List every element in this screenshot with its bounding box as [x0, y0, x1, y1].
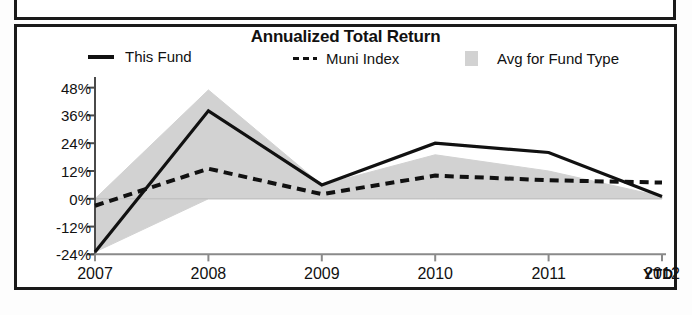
x-axis-tick-label: 2009: [304, 265, 340, 283]
x-axis-ytd-label: YTD: [643, 265, 673, 282]
annualized-total-return-chart-panel: Annualized Total Return This Fund Muni I…: [14, 24, 677, 290]
screenshot-root: Annualized Total Return This Fund Muni I…: [0, 0, 692, 315]
x-axis-tick-label: 2008: [191, 265, 227, 283]
x-axis-tick-label: 2010: [417, 265, 453, 283]
y-axis-tick-label: -12%: [56, 218, 91, 235]
x-axis-tick-labels: 200720082009201020112012: [17, 265, 674, 295]
y-axis-tick-label: 12%: [61, 163, 91, 180]
y-axis-tick-label: 48%: [61, 79, 91, 96]
y-axis-tick-label: -24%: [56, 246, 91, 263]
y-axis-tick-label: 0%: [69, 190, 91, 207]
y-axis-tick-label: 36%: [61, 107, 91, 124]
y-axis-tick-labels: 48%36%24%12%0%-12%-24%: [39, 27, 91, 287]
chart-canvas: [17, 27, 674, 287]
band-avg-for-fund-type: [95, 90, 662, 252]
x-axis-tick-label: 2007: [77, 265, 113, 283]
plot-area: 48%36%24%12%0%-12%-24% 20072008200920102…: [17, 27, 674, 287]
adjacent-panel-bottom-edge: [14, 0, 676, 20]
y-axis-tick-label: 24%: [61, 135, 91, 152]
x-axis-tick-label: 2011: [531, 265, 565, 283]
